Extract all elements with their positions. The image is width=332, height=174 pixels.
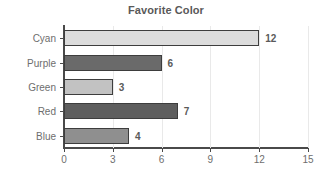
x-axis-tick	[308, 148, 309, 152]
bar-value-label: 6	[168, 57, 174, 68]
bar-row: 4	[64, 128, 308, 144]
x-axis-label: 6	[159, 154, 165, 165]
bar-value-label: 12	[265, 33, 276, 44]
bar	[64, 79, 113, 95]
x-axis-tick	[113, 148, 114, 152]
y-axis-tick	[60, 111, 64, 112]
x-axis-label: 9	[208, 154, 214, 165]
x-axis-tick	[162, 148, 163, 152]
bar-row: 7	[64, 103, 308, 119]
plot-area: 126374	[64, 26, 308, 148]
bar-value-label: 7	[184, 106, 190, 117]
bar-value-label: 4	[135, 130, 141, 141]
bar	[64, 103, 178, 119]
bar-row: 12	[64, 30, 308, 46]
y-axis-tick	[60, 63, 64, 64]
x-axis-label: 0	[61, 154, 67, 165]
x-axis-tick	[259, 148, 260, 152]
category-label-cyan: Cyan	[0, 33, 56, 44]
x-axis-label: 15	[302, 154, 313, 165]
chart-title: Favorite Color	[0, 4, 332, 16]
x-axis-label: 3	[110, 154, 116, 165]
gridline	[308, 26, 309, 148]
category-label-green: Green	[0, 82, 56, 93]
category-label-blue: Blue	[0, 130, 56, 141]
bar	[64, 55, 162, 71]
x-axis-tick	[64, 148, 65, 152]
bar-row: 6	[64, 55, 308, 71]
x-axis-label: 12	[254, 154, 265, 165]
x-axis-tick	[210, 148, 211, 152]
y-axis-tick	[60, 38, 64, 39]
y-axis-tick	[60, 136, 64, 137]
bar-value-label: 3	[119, 82, 125, 93]
bar-chart: Favorite Color 126374 CyanPurpleGreenRed…	[0, 0, 332, 174]
bar	[64, 128, 129, 144]
category-label-red: Red	[0, 106, 56, 117]
category-label-purple: Purple	[0, 57, 56, 68]
y-axis-tick	[60, 87, 64, 88]
bar	[64, 30, 259, 46]
bar-row: 3	[64, 79, 308, 95]
